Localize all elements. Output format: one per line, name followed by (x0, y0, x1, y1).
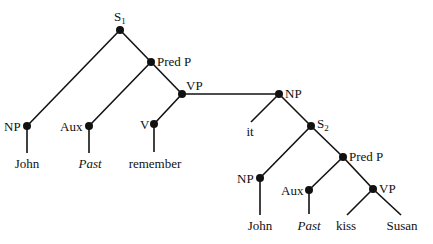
edge-predp2-aux2 (309, 157, 343, 190)
node-label-np1: NP (4, 119, 21, 134)
tree-node-dots (23, 26, 377, 194)
node-label-predp1: Pred P (157, 54, 191, 69)
leaf-kiss: kiss (336, 218, 356, 233)
node-dot-np1 (23, 122, 31, 130)
node-label-s2: S2 (317, 116, 329, 133)
tree-edges (27, 30, 401, 215)
node-dot-aux2 (305, 186, 313, 194)
leaf-john-1: John (15, 156, 40, 171)
node-dot-s2 (307, 122, 315, 130)
syntax-tree-diagram: S1 Pred P NP Aux VP V NP S2 NP Pred P Au… (0, 0, 433, 244)
node-dot-predp2 (339, 153, 347, 161)
leaf-john-2: John (248, 218, 273, 233)
node-label-v1: V (140, 117, 150, 132)
node-dot-aux1 (85, 122, 93, 130)
leaf-remember: remember (129, 156, 182, 171)
node-dot-np2 (275, 90, 283, 98)
edge-s2-np3 (260, 126, 311, 178)
node-label-np2: NP (285, 86, 302, 101)
node-label-s1: S1 (114, 9, 126, 26)
node-label-aux2: Aux (281, 183, 304, 198)
node-label-vp2: VP (379, 181, 396, 196)
node-dot-v1 (150, 120, 158, 128)
node-label-np3: NP (237, 171, 254, 186)
leaf-past-2: Past (296, 218, 321, 233)
node-dot-predp1 (147, 58, 155, 66)
edge-np2-it (251, 94, 279, 122)
node-dot-np3 (256, 174, 264, 182)
leaf-it: it (246, 124, 254, 139)
node-label-vp1: VP (186, 78, 203, 93)
node-dot-s1 (116, 26, 124, 34)
edge-vp2-kiss (347, 189, 373, 215)
node-label-predp2: Pred P (349, 149, 383, 164)
leaf-susan: Susan (386, 218, 418, 233)
tree-node-labels: S1 Pred P NP Aux VP V NP S2 NP Pred P Au… (4, 9, 396, 198)
node-dot-vp2 (369, 185, 377, 193)
node-dot-vp1 (178, 90, 186, 98)
edge-vp-v (154, 94, 182, 124)
edge-s1-np (27, 30, 120, 126)
tree-leaf-labels: John Past remember it John Past kiss Sus… (15, 124, 418, 233)
leaf-past-1: Past (77, 156, 102, 171)
edge-s1-predp (120, 30, 151, 62)
node-label-aux1: Aux (60, 119, 83, 134)
